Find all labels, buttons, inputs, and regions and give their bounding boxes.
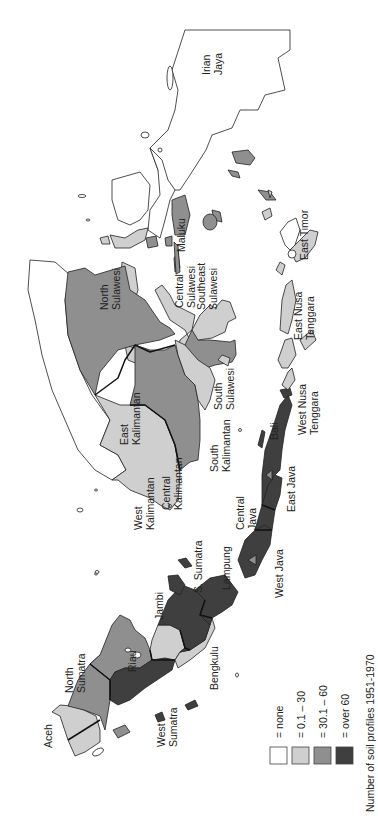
legend-swatch-over-60 — [336, 747, 353, 764]
legend-label-30-60: = 30.1 – 60 — [317, 685, 329, 738]
region-halmahera — [100, 228, 148, 248]
label-east-java: East Java — [285, 466, 297, 512]
legend-swatch-0-30 — [292, 747, 309, 764]
label-southeast-sulawesi: SoutheastSulawesi — [195, 263, 219, 310]
legend-label-0-30: = 0.1 – 30 — [295, 691, 307, 738]
label-south-sulawesi: SouthSulawesi — [212, 368, 236, 410]
label-jambi: Jambi — [153, 592, 165, 620]
label-lampung: Lampung — [220, 546, 232, 590]
legend-swatch-30-60 — [314, 747, 331, 764]
label-riau: Riau — [126, 650, 138, 672]
label-west-java: West Java — [273, 549, 285, 598]
legend-label-none: = none — [273, 705, 285, 738]
label-central-java: CentralJava — [234, 496, 258, 530]
label-east-nusa-tenggara: East NusaTenggara — [292, 291, 316, 340]
label-east-timor: East Timor — [298, 209, 310, 260]
label-west-nusa-tenggara: West NusaTenggara — [296, 384, 320, 435]
label-s-sumatra: S. Sumatra — [192, 540, 204, 593]
legend: = none = 0.1 – 30 = 30.1 – 60 = over 60 — [270, 685, 353, 764]
label-bengkulu: Bengkulu — [208, 646, 220, 690]
legend-label-over-60: = over 60 — [339, 694, 351, 738]
indonesia-soil-profile-map: IrianJaya Maluku East Timor SoutheastSul… — [0, 0, 378, 819]
label-north-sumatra: NorthSumatra — [63, 653, 87, 693]
label-aceh: Aceh — [42, 724, 54, 748]
label-irian-jaya: IrianJaya — [200, 53, 224, 75]
map-title: Number of soil profiles 1951-1970 — [364, 654, 376, 812]
legend-swatch-none — [270, 747, 287, 764]
label-maluku: Maluku — [175, 218, 187, 252]
label-bali: Bali — [268, 422, 280, 440]
label-south-kalimantan: SouthKalimantan — [208, 419, 232, 472]
